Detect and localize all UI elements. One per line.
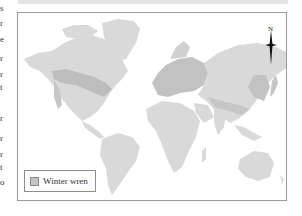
text-fragment: r: [0, 114, 3, 123]
cropped-body-text: s r e r r t r r r t o: [0, 0, 8, 216]
text-fragment: r: [0, 54, 3, 63]
text-fragment: r: [0, 19, 3, 28]
text-fragment: s: [0, 4, 4, 13]
text-fragment: r: [0, 134, 3, 143]
map-legend: Winter wren: [24, 170, 96, 192]
header-bar: [18, 0, 288, 4]
text-fragment: t: [0, 163, 3, 172]
legend-swatch-winter-wren: [30, 177, 39, 186]
text-fragment: r: [0, 150, 3, 159]
legend-label: Winter wren: [43, 176, 88, 186]
text-fragment: t: [0, 83, 3, 92]
text-fragment: o: [0, 178, 5, 187]
compass-north-label: N: [268, 25, 273, 33]
north-arrow-icon: [264, 27, 278, 67]
text-fragment: r: [0, 70, 3, 79]
text-fragment: e: [0, 35, 4, 44]
